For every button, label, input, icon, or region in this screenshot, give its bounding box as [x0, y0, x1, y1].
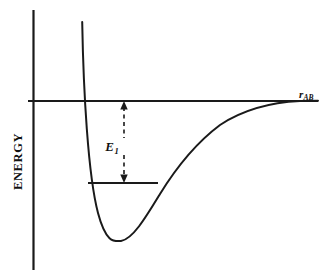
potential-energy-diagram: E1 rAB ENERGY	[0, 0, 328, 275]
diagram-canvas: E1 rAB ENERGY	[0, 0, 328, 275]
dissociation-energy-symbol: E	[104, 139, 114, 154]
x-axis-label-subscript: AB	[303, 93, 314, 102]
dissociation-energy-subscript: 1	[114, 146, 118, 156]
y-axis-label: ENERGY	[11, 133, 25, 190]
figure-background	[0, 0, 328, 275]
